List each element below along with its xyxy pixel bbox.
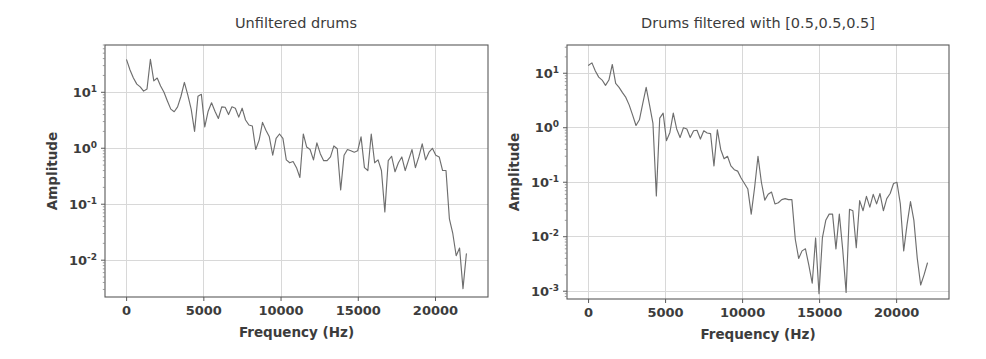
axes-frame	[567, 45, 949, 299]
y-tick-label: 101	[535, 65, 559, 81]
y-axis-label: Amplitude	[506, 133, 522, 211]
x-tick-label: 0	[584, 305, 593, 320]
y-axis-label: Amplitude	[44, 132, 60, 210]
chart-svg: Drums filtered with [0.5,0.5,0.5]0500010…	[493, 0, 986, 359]
x-tick-label: 20000	[874, 305, 919, 320]
y-tick-label: 10-1	[69, 196, 97, 212]
axes-frame	[105, 45, 488, 297]
x-tick-label: 15000	[797, 305, 842, 320]
chart-svg: Unfiltered drums050001000015000200001011…	[0, 0, 493, 359]
y-tick-label: 10-2	[69, 252, 97, 268]
y-tick-label: 10-1	[531, 174, 559, 190]
figure-container: Unfiltered drums050001000015000200001011…	[0, 0, 986, 359]
x-axis-label: Frequency (Hz)	[239, 324, 354, 340]
x-axis-label: Frequency (Hz)	[700, 326, 815, 342]
x-tick-label: 5000	[186, 303, 222, 318]
chart-title: Drums filtered with [0.5,0.5,0.5]	[641, 15, 875, 31]
x-tick-label: 20000	[413, 303, 458, 318]
chart-panel-unfiltered-drums: Unfiltered drums050001000015000200001011…	[0, 0, 493, 359]
spectrum-line	[589, 63, 928, 294]
spectrum-line	[127, 59, 467, 288]
y-tick-label: 100	[73, 140, 97, 156]
x-tick-label: 5000	[647, 305, 683, 320]
chart-title: Unfiltered drums	[235, 15, 357, 31]
x-tick-label: 0	[122, 303, 131, 318]
y-tick-label: 101	[73, 84, 97, 100]
y-tick-label: 10-2	[531, 228, 559, 244]
x-tick-label: 10000	[258, 303, 303, 318]
x-tick-label: 15000	[336, 303, 381, 318]
y-tick-label: 100	[535, 119, 559, 135]
chart-panel-filtered-drums: Drums filtered with [0.5,0.5,0.5]0500010…	[493, 0, 986, 359]
x-tick-label: 10000	[720, 305, 765, 320]
y-tick-label: 10-3	[531, 283, 559, 299]
